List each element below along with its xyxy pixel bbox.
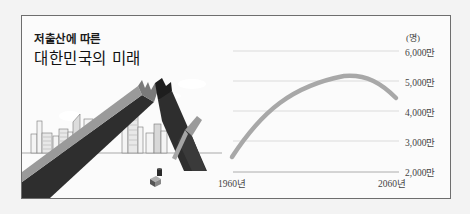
population-line-chart xyxy=(22,16,451,199)
y-tick-4000: 4,000만 xyxy=(405,105,435,119)
y-tick-5000: 5,000만 xyxy=(405,75,435,89)
y-axis-unit: (명) xyxy=(406,31,420,44)
y-tick-2000: 2,000만 xyxy=(405,165,435,179)
population-curve xyxy=(232,76,396,157)
y-tick-6000: 6,000만 xyxy=(405,45,435,59)
y-tick-3000: 3,000만 xyxy=(405,135,435,149)
x-tick-1960: 1960년 xyxy=(218,176,246,190)
infographic-frame: 저출산에 따른 대한민국의 미래 (명) 6,000만 5,000만 4,000… xyxy=(21,15,451,199)
gridlines xyxy=(233,51,399,172)
x-tick-2060: 2060년 xyxy=(378,176,406,190)
